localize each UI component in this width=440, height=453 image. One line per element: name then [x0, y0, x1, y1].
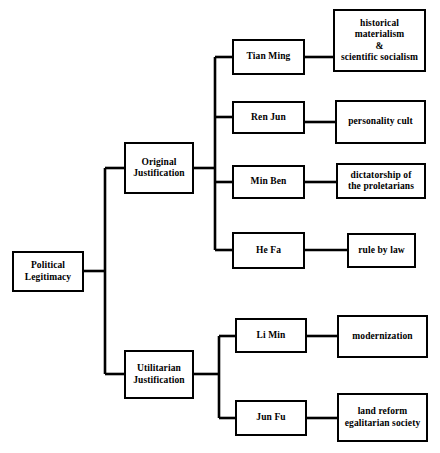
node-land-reform-egalitarian-society[interactable]: land reform egalitarian society — [337, 393, 428, 442]
node-land-reform-label: land reform egalitarian society — [341, 406, 424, 428]
node-modernization[interactable]: modernization — [337, 315, 428, 358]
node-jun-fu[interactable]: Jun Fu — [235, 400, 307, 436]
diagram-canvas: Political Legitimacy Original Justificat… — [0, 0, 440, 453]
node-he-fa-label: He Fa — [236, 245, 301, 256]
node-original-justification-label: Original Justification — [128, 157, 190, 179]
node-dictatorship-label: dictatorship of the proletarians — [340, 170, 422, 192]
node-li-min-label: Li Min — [239, 330, 303, 341]
node-historical-materialism-label: historical materialism & scientific soci… — [337, 18, 422, 63]
node-political-legitimacy-label: Political Legitimacy — [16, 260, 80, 282]
node-ren-jun-label: Ren Jun — [236, 112, 301, 123]
node-personality-cult-label: personality cult — [339, 116, 422, 127]
node-historical-materialism-scientific-socialism[interactable]: historical materialism & scientific soci… — [333, 9, 426, 72]
node-modernization-label: modernization — [341, 331, 424, 342]
node-jun-fu-label: Jun Fu — [239, 412, 303, 423]
node-tian-ming[interactable]: Tian Ming — [232, 39, 305, 75]
node-tian-ming-label: Tian Ming — [236, 51, 301, 62]
node-personality-cult[interactable]: personality cult — [335, 100, 426, 144]
node-he-fa[interactable]: He Fa — [232, 232, 305, 269]
node-min-ben[interactable]: Min Ben — [232, 165, 305, 199]
node-ren-jun[interactable]: Ren Jun — [232, 101, 305, 134]
node-political-legitimacy[interactable]: Political Legitimacy — [12, 251, 84, 292]
node-min-ben-label: Min Ben — [236, 176, 301, 187]
node-dictatorship-of-the-proletarians[interactable]: dictatorship of the proletarians — [336, 163, 426, 199]
node-original-justification[interactable]: Original Justification — [124, 142, 194, 194]
node-utilitarian-justification-label: Utilitarian Justification — [128, 363, 190, 385]
node-utilitarian-justification[interactable]: Utilitarian Justification — [124, 350, 194, 399]
node-li-min[interactable]: Li Min — [235, 318, 307, 353]
node-rule-by-law-label: rule by law — [351, 245, 412, 256]
node-rule-by-law[interactable]: rule by law — [347, 233, 416, 268]
